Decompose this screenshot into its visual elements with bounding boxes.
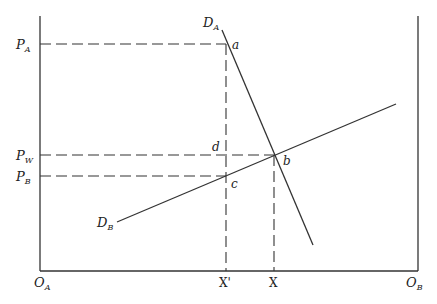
label-pa: PA — [15, 37, 31, 54]
point-a-label: a — [232, 38, 239, 52]
point-b-label: b — [283, 154, 291, 168]
diagram-canvas: PA PW PB DA DB a b c d X' X OA OB — [0, 0, 437, 304]
point-c-label: c — [231, 177, 238, 191]
label-da: DA — [202, 15, 219, 32]
label-db: DB — [96, 215, 113, 232]
label-x: X — [269, 276, 278, 290]
label-pw: PW — [15, 148, 34, 165]
demand-curve-b — [117, 104, 396, 222]
label-origin-b: OB — [406, 275, 423, 292]
point-d-label: d — [212, 140, 220, 154]
label-xprime: X' — [219, 276, 231, 290]
demand-curve-a — [222, 30, 313, 245]
label-pb: PB — [15, 169, 31, 186]
label-origin-a: OA — [34, 275, 51, 292]
